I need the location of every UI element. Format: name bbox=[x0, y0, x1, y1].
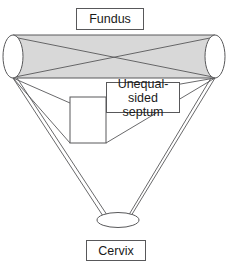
septum-left-lower-edge bbox=[13, 78, 70, 143]
fundus-label: Fundus bbox=[76, 8, 144, 30]
left-horn-ellipse bbox=[3, 35, 23, 78]
cervix-ellipse bbox=[97, 213, 139, 228]
unequal-sided-septum-label: Unequal- sided septum bbox=[106, 82, 180, 113]
cervix-label: Cervix bbox=[86, 240, 146, 261]
uterus-septum-diagram bbox=[0, 0, 228, 267]
septum-block bbox=[70, 97, 106, 143]
right-horn-ellipse bbox=[205, 35, 225, 78]
